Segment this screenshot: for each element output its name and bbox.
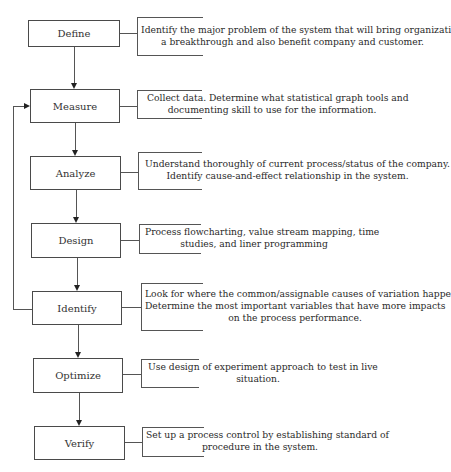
connector-design bbox=[121, 240, 139, 241]
step-label-measure: Measure bbox=[53, 101, 97, 112]
description-analyze: Understand thoroughly of current process… bbox=[145, 158, 430, 182]
step-label-verify: Verify bbox=[65, 438, 95, 449]
flow-line-design-identify bbox=[77, 258, 78, 285]
step-box-identify: Identify bbox=[32, 291, 122, 325]
description-verify: Set up a process control by establishing… bbox=[146, 429, 374, 453]
flow-line-measure-analyze bbox=[75, 123, 76, 150]
step-box-design: Design bbox=[31, 223, 121, 258]
connector-measure bbox=[120, 106, 137, 107]
connector-verify bbox=[125, 442, 142, 443]
step-label-design: Design bbox=[58, 235, 93, 246]
connector-identify bbox=[122, 307, 141, 308]
flow-line-analyze-design bbox=[76, 190, 77, 217]
step-box-measure: Measure bbox=[30, 89, 120, 123]
step-label-analyze: Analyze bbox=[56, 168, 96, 179]
flow-line-optimize-verify bbox=[79, 393, 80, 420]
flow-line-identify-optimize bbox=[78, 325, 79, 352]
step-box-analyze: Analyze bbox=[30, 156, 121, 190]
description-measure: Collect data. Determine what statistical… bbox=[147, 92, 397, 116]
step-label-optimize: Optimize bbox=[55, 370, 101, 381]
connector-analyze bbox=[121, 172, 138, 173]
step-label-define: Define bbox=[58, 28, 91, 39]
description-define: Identify the major problem of the system… bbox=[141, 24, 444, 48]
step-box-optimize: Optimize bbox=[33, 358, 123, 393]
connector-optimize bbox=[123, 374, 141, 375]
feedback-line-top bbox=[13, 106, 24, 107]
step-label-identify: Identify bbox=[57, 303, 96, 314]
connector-define bbox=[120, 33, 137, 34]
description-optimize: Use design of experiment approach to tes… bbox=[148, 361, 368, 385]
feedback-line-bottom bbox=[14, 309, 32, 310]
description-design: Process flowcharting, value stream mappi… bbox=[145, 226, 363, 250]
description-identify: Look for where the common/assignable cau… bbox=[145, 288, 445, 324]
arrow-right-icon bbox=[24, 103, 30, 109]
step-box-define: Define bbox=[28, 20, 120, 47]
flowchart-diagram: Define Identify the major problem of the… bbox=[0, 0, 451, 472]
feedback-line-vertical bbox=[13, 106, 14, 310]
step-box-verify: Verify bbox=[34, 426, 125, 460]
flow-line-define-measure bbox=[74, 47, 75, 83]
